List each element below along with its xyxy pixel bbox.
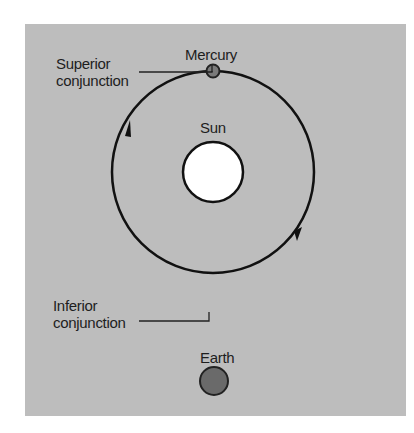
sun-body [183, 142, 243, 202]
earth-label: Earth [200, 349, 234, 366]
earth-body [200, 367, 228, 395]
inferior-conjunction-label: Inferior conjunction [53, 297, 126, 331]
mercury-label: Mercury [185, 46, 237, 63]
mercury-body [207, 65, 220, 78]
sun-label: Sun [200, 119, 226, 136]
superior-conjunction-label: Superior conjunction [56, 55, 129, 89]
inferior-conjunction-leader [139, 312, 209, 321]
